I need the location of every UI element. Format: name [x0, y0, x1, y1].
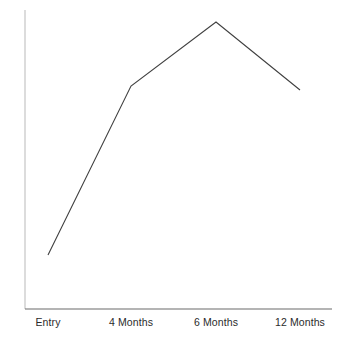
x-tick-label-entry: Entry — [35, 316, 60, 328]
line-chart: Entry 4 Months 6 Months 12 Months — [0, 0, 349, 339]
chart-plot-area — [0, 0, 349, 339]
x-tick-label-6-months: 6 Months — [194, 316, 238, 328]
data-series-line — [48, 22, 300, 255]
x-tick-label-12-months: 12 Months — [275, 316, 325, 328]
x-tick-label-4-months: 4 Months — [109, 316, 153, 328]
